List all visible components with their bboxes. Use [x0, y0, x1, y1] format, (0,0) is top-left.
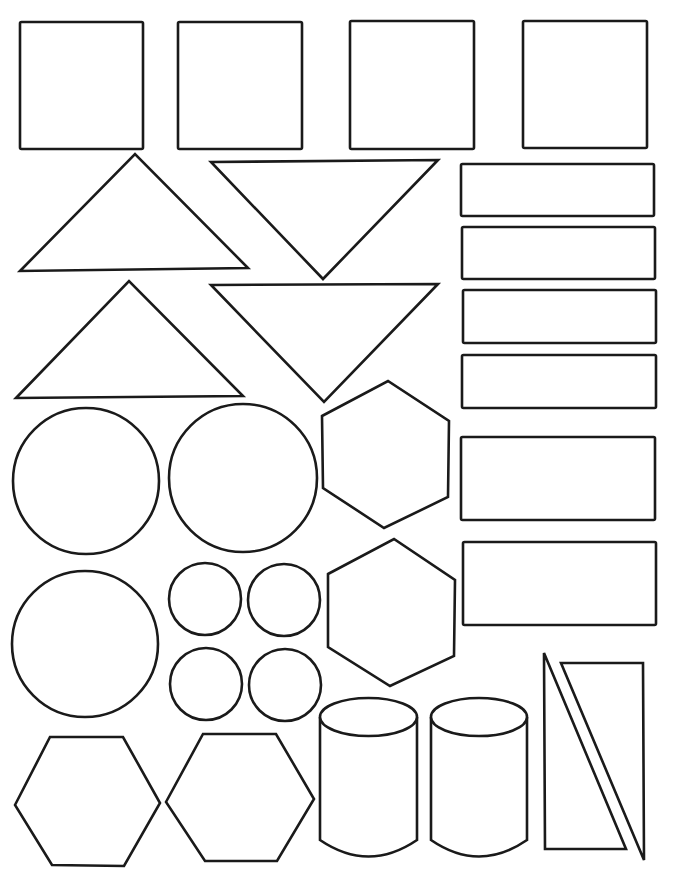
hexagon-shape — [328, 539, 455, 686]
triangle-shape — [211, 160, 438, 279]
square-shape — [350, 21, 474, 149]
rectangle-shape — [461, 164, 654, 216]
rectangle-shape — [462, 355, 656, 408]
circle-shape — [170, 648, 242, 720]
rectangle-shape — [462, 227, 655, 279]
circle-shape — [13, 408, 159, 554]
square-shape — [523, 21, 647, 148]
shapes-sheet — [0, 0, 676, 883]
circle-shape — [249, 649, 321, 721]
circle-shape — [169, 563, 241, 635]
circle-shape — [248, 564, 320, 636]
rectangle-shape — [463, 542, 656, 625]
hexagon-shape — [15, 737, 160, 866]
hexagon-shape — [322, 381, 449, 528]
circle-shape — [12, 571, 158, 717]
cylinder-body-shape — [431, 717, 527, 857]
square-shape — [20, 22, 143, 149]
circle-shape — [169, 404, 317, 552]
triangle-shape — [20, 154, 248, 271]
cylinder-body-shape — [320, 717, 417, 857]
shapes-canvas — [0, 0, 676, 883]
cylinder-top-shape — [431, 698, 527, 736]
square-shape — [178, 22, 302, 149]
hexagon-shape — [166, 734, 314, 861]
triangle-shape — [211, 284, 438, 402]
rectangle-shape — [461, 437, 655, 520]
cylinder-top-shape — [320, 698, 417, 736]
rectangle-shape — [463, 290, 656, 343]
triangle-shape — [16, 281, 243, 398]
